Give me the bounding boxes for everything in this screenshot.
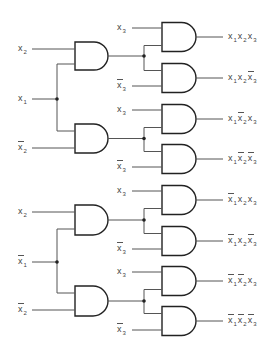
- minterm-output-label: x1x2x3: [228, 113, 258, 124]
- input-label: x1: [18, 93, 28, 104]
- literal: x1: [228, 235, 237, 246]
- literal: x3: [248, 235, 257, 246]
- x3-input-label: x3: [117, 104, 127, 115]
- literal: x1: [18, 93, 27, 104]
- junction-dot: [142, 137, 146, 141]
- and-gate-stage2: [162, 227, 196, 256]
- x3-input-label: x3: [117, 22, 127, 33]
- and-gate-stage2: [162, 23, 196, 52]
- minterm-output-label: x1x2x3: [228, 275, 258, 286]
- literal: x1: [228, 72, 237, 83]
- literal: x3: [117, 161, 126, 172]
- literal: x3: [117, 22, 126, 33]
- literal: x2: [18, 206, 27, 217]
- minterm-output-label: x1x2x3: [228, 153, 258, 164]
- literal: x3: [248, 315, 257, 326]
- x3-input-label: x3: [117, 266, 127, 277]
- literal: x3: [117, 266, 126, 277]
- literal: x2: [238, 153, 247, 164]
- and-gate-stage2: [162, 267, 196, 296]
- literal: x1: [228, 113, 237, 124]
- literal: x1: [228, 31, 237, 42]
- literal: x3: [248, 72, 257, 83]
- literal: x2: [18, 304, 27, 315]
- literal: x2: [18, 43, 27, 54]
- input-label: x2: [18, 142, 28, 153]
- literal: x1: [18, 256, 27, 267]
- circuit-wiring: [0, 0, 278, 354]
- and-gate-stage2: [162, 186, 196, 215]
- junction-dot: [55, 97, 59, 101]
- x3-input-label: x3: [117, 80, 127, 91]
- and-gate-stage1: [75, 286, 108, 316]
- literal: x2: [238, 235, 247, 246]
- and-gate-stage2: [162, 145, 196, 174]
- x3-input-label: x3: [117, 324, 127, 335]
- minterm-output-label: x1x2x3: [228, 235, 258, 246]
- x3-input-label: x3: [117, 185, 127, 196]
- literal: x2: [238, 194, 247, 205]
- literal: x2: [238, 72, 247, 83]
- input-label: x2: [18, 206, 28, 217]
- minterm-output-label: x1x2x3: [228, 194, 258, 205]
- literal: x3: [117, 104, 126, 115]
- minterm-output-label: x1x2x3: [228, 72, 258, 83]
- literal: x3: [117, 324, 126, 335]
- literal: x3: [117, 185, 126, 196]
- literal: x3: [248, 275, 257, 286]
- and-gate-stage1: [75, 205, 108, 235]
- literal: x2: [238, 31, 247, 42]
- and-gate-stage2: [162, 307, 196, 336]
- minterm-output-label: x1x2x3: [228, 31, 258, 42]
- literal: x1: [228, 275, 237, 286]
- literal: x2: [238, 315, 247, 326]
- and-gate-stage1: [75, 124, 108, 153]
- junction-dot: [142, 54, 146, 58]
- literal: x1: [228, 153, 237, 164]
- literal: x3: [248, 113, 257, 124]
- and-gate-stage2: [162, 64, 196, 93]
- literal: x2: [18, 142, 27, 153]
- literal: x2: [238, 275, 247, 286]
- literal: x3: [117, 243, 126, 254]
- input-label: x1: [18, 256, 28, 267]
- literal: x3: [248, 194, 257, 205]
- junction-dot: [55, 260, 59, 264]
- literal: x3: [248, 153, 257, 164]
- x3-input-label: x3: [117, 243, 127, 254]
- literal: x3: [248, 31, 257, 42]
- input-label: x2: [18, 304, 28, 315]
- minterm-output-label: x1x2x3: [228, 315, 258, 326]
- literal: x3: [117, 80, 126, 91]
- x3-input-label: x3: [117, 161, 127, 172]
- and-gate-stage1: [75, 42, 108, 70]
- literal: x2: [238, 113, 247, 124]
- junction-dot: [142, 299, 146, 303]
- and-gate-stage2: [162, 105, 196, 134]
- literal: x1: [228, 315, 237, 326]
- junction-dot: [142, 218, 146, 222]
- input-label: x2: [18, 43, 28, 54]
- literal: x1: [228, 194, 237, 205]
- decoder-diagram: x2x1x2x2x1x2x3x3x1x2x3x1x2x3x3x3x1x2x3x1…: [0, 0, 278, 354]
